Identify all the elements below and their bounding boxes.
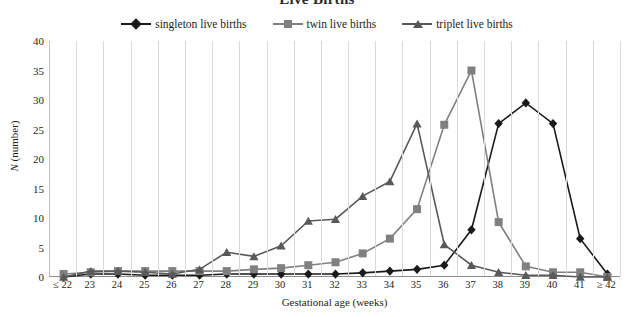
x-axis-tick-label: 32 <box>329 279 340 290</box>
gridline-vertical <box>103 41 104 276</box>
series-diamond <box>59 98 611 281</box>
legend-item[interactable]: twin live births <box>273 18 377 30</box>
gridline-vertical <box>158 41 159 276</box>
gridline-vertical <box>620 41 621 276</box>
x-axis-tick-label: 26 <box>166 279 177 290</box>
data-point-marker <box>440 121 448 129</box>
legend-key-triangle-icon <box>402 18 432 30</box>
data-point-marker <box>358 192 367 200</box>
gridline-vertical <box>131 41 132 276</box>
x-axis-tick-labels: ≤ 22232425262728293031323334353637383940… <box>49 279 620 295</box>
gridline-vertical <box>484 41 485 276</box>
gridline-vertical <box>538 41 539 276</box>
legend-marker <box>131 18 142 29</box>
data-point-marker <box>413 265 421 274</box>
y-axis-tick-label: 30 <box>4 94 49 106</box>
legend-marker <box>284 20 292 28</box>
live-births-line-chart: Live Births singleton live birthstwin li… <box>0 0 634 317</box>
x-axis-tick-label: ≥ 42 <box>597 279 616 290</box>
x-axis-tick-label: 35 <box>411 279 422 290</box>
gridline-vertical <box>566 41 567 276</box>
legend-label: twin live births <box>307 18 377 30</box>
data-point-marker <box>495 218 503 226</box>
gridline-vertical <box>76 41 77 276</box>
gridline-vertical <box>321 41 322 276</box>
data-point-marker <box>467 67 475 75</box>
x-axis-tick-label: 36 <box>438 279 449 290</box>
x-axis-tick-label: 29 <box>248 279 259 290</box>
data-point-marker <box>386 267 394 276</box>
gridline-vertical <box>212 41 213 276</box>
gridline-vertical <box>239 41 240 276</box>
x-axis-title: Gestational age (weeks) <box>49 296 620 308</box>
chart-legend: singleton live birthstwin live birthstri… <box>0 16 634 32</box>
data-point-marker <box>332 258 340 266</box>
series-square <box>60 67 612 282</box>
series-line <box>64 103 608 277</box>
x-axis-tick-label: 34 <box>384 279 395 290</box>
y-axis-tick-label: 35 <box>4 65 49 77</box>
gridline-vertical <box>348 41 349 276</box>
x-axis-tick-label: 28 <box>220 279 231 290</box>
data-point-marker <box>331 269 339 278</box>
y-axis-tick-label: 40 <box>4 35 49 47</box>
x-axis-tick-label: 25 <box>139 279 150 290</box>
x-axis-tick-label: 33 <box>356 279 367 290</box>
y-axis-title: N (number) <box>8 106 20 186</box>
gridline-vertical <box>511 41 512 276</box>
gridline-vertical <box>402 41 403 276</box>
data-point-marker <box>359 249 367 257</box>
gridline-vertical <box>294 41 295 276</box>
y-axis-tick-label: 0 <box>4 271 49 283</box>
data-point-marker <box>358 268 366 277</box>
data-point-marker <box>223 267 231 275</box>
legend-label: singleton live births <box>155 18 246 30</box>
legend-item[interactable]: triplet live births <box>402 18 513 30</box>
legend-item[interactable]: singleton live births <box>121 18 246 30</box>
x-axis-tick-label: 27 <box>193 279 204 290</box>
x-axis-tick-label: 23 <box>85 279 96 290</box>
x-axis-tick-label: 31 <box>302 279 313 290</box>
gridline-vertical <box>593 41 594 276</box>
data-point-marker <box>277 264 285 272</box>
y-axis-tick-label: 5 <box>4 242 49 254</box>
data-point-marker <box>440 240 449 248</box>
x-axis-tick-label: 30 <box>275 279 286 290</box>
x-axis-tick-label: 39 <box>520 279 531 290</box>
chart-title: Live Births <box>0 0 634 5</box>
data-point-marker <box>250 265 258 273</box>
legend-key-diamond-icon <box>121 18 151 30</box>
series-line <box>64 124 608 277</box>
legend-label: triplet live births <box>436 18 513 30</box>
data-point-marker <box>413 205 421 213</box>
series-triangle <box>59 119 612 280</box>
plot-area <box>49 41 620 277</box>
x-axis-tick-label: 40 <box>547 279 558 290</box>
gridline-vertical <box>457 41 458 276</box>
legend-marker <box>413 20 423 28</box>
gridline-vertical <box>430 41 431 276</box>
data-point-marker <box>385 177 394 185</box>
legend-key-square-icon <box>273 18 303 30</box>
data-point-marker <box>304 269 312 278</box>
y-axis-tick-label: 10 <box>4 212 49 224</box>
x-axis-tick-label: ≤ 22 <box>53 279 72 290</box>
x-axis-tick-label: 41 <box>574 279 585 290</box>
x-axis-tick-label: 37 <box>465 279 476 290</box>
data-point-marker <box>412 119 421 127</box>
data-point-marker <box>304 261 312 269</box>
gridline-vertical <box>185 41 186 276</box>
gridline-vertical <box>375 41 376 276</box>
gridline-vertical <box>267 41 268 276</box>
series-lines <box>50 41 621 277</box>
data-point-marker <box>522 262 530 270</box>
x-axis-tick-label: 38 <box>492 279 503 290</box>
x-axis-tick-label: 24 <box>112 279 123 290</box>
data-point-marker <box>386 235 394 243</box>
